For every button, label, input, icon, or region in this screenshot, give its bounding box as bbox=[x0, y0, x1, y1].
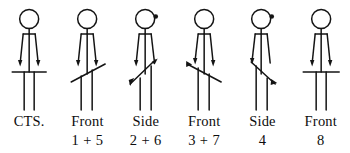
head-icon bbox=[78, 10, 97, 29]
stick-figure-side-4 bbox=[233, 0, 291, 112]
arm-right-arrowhead bbox=[328, 60, 332, 67]
figure-label-cts: CTS. bbox=[0, 112, 58, 153]
arm-right-line bbox=[327, 34, 330, 63]
arm-left-arrowhead bbox=[76, 60, 80, 67]
hip-bar-diagonal-up-right bbox=[71, 64, 105, 82]
head-icon bbox=[195, 10, 214, 29]
head-icon bbox=[252, 10, 271, 29]
head-icon bbox=[20, 10, 39, 29]
arm-left-line bbox=[252, 34, 255, 60]
bar-arrowhead-low bbox=[128, 78, 134, 86]
arm-right-arrowhead bbox=[36, 60, 40, 67]
figure-label-side-2-6: Side 2 + 6 bbox=[117, 112, 175, 153]
figure-label-front-1-5: Front 1 + 5 bbox=[58, 112, 116, 153]
nose-mark-icon bbox=[270, 14, 275, 19]
arm-right-arrowhead bbox=[94, 60, 98, 67]
arm-right-line bbox=[93, 34, 96, 63]
stick-figure-front-1-5 bbox=[58, 0, 116, 112]
head-icon bbox=[311, 10, 330, 29]
arm-left-line bbox=[78, 34, 81, 63]
label-secondary: 1 + 5 bbox=[58, 131, 116, 150]
label-secondary: 2 + 6 bbox=[117, 131, 175, 150]
nose-mark-icon bbox=[153, 14, 158, 19]
arm-left-arrowhead bbox=[310, 60, 314, 67]
stick-figure-front-3-7 bbox=[175, 0, 233, 112]
arm-right-line bbox=[267, 34, 270, 63]
bar-arrowhead-end bbox=[271, 79, 278, 85]
label-primary: CTS. bbox=[0, 112, 58, 131]
label-secondary: 8 bbox=[292, 131, 350, 150]
arm-left-line bbox=[195, 34, 198, 60]
figure-label-front-3-7: Front 3 + 7 bbox=[175, 112, 233, 153]
label-primary: Side bbox=[233, 112, 291, 131]
figure-label-side-4: Side 4 bbox=[233, 112, 291, 153]
stick-figure-front-8 bbox=[292, 0, 350, 112]
arm-left-line bbox=[312, 34, 315, 63]
label-primary: Side bbox=[117, 112, 175, 131]
figure-labels-row: CTS. Front 1 + 5 Side 2 + 6 Front 3 + 7 … bbox=[0, 112, 350, 153]
arm-right-arrowhead bbox=[211, 60, 215, 67]
arm-left-line bbox=[136, 34, 139, 63]
stick-figures-row bbox=[0, 0, 350, 112]
stick-figure-side-2-6 bbox=[117, 0, 175, 112]
arm-right-line bbox=[151, 34, 154, 60]
cts-figure-sheet: CTS. Front 1 + 5 Side 2 + 6 Front 3 + 7 … bbox=[0, 0, 350, 153]
arm-left-arrowhead bbox=[18, 60, 22, 67]
head-icon bbox=[135, 10, 154, 29]
arm-right-line bbox=[210, 34, 213, 63]
arm-right-line bbox=[35, 34, 38, 63]
label-primary: Front bbox=[175, 112, 233, 131]
arm-left-line bbox=[20, 34, 23, 63]
label-secondary: 4 bbox=[233, 131, 291, 150]
arm-left-arrowhead bbox=[134, 60, 138, 67]
label-secondary: 3 + 7 bbox=[175, 131, 233, 150]
stick-figure-cts bbox=[0, 0, 58, 112]
label-primary: Front bbox=[292, 112, 350, 131]
label-secondary bbox=[0, 131, 58, 150]
arm-left-arrowhead bbox=[193, 58, 197, 65]
label-primary: Front bbox=[58, 112, 116, 131]
figure-label-front-8: Front 8 bbox=[292, 112, 350, 153]
